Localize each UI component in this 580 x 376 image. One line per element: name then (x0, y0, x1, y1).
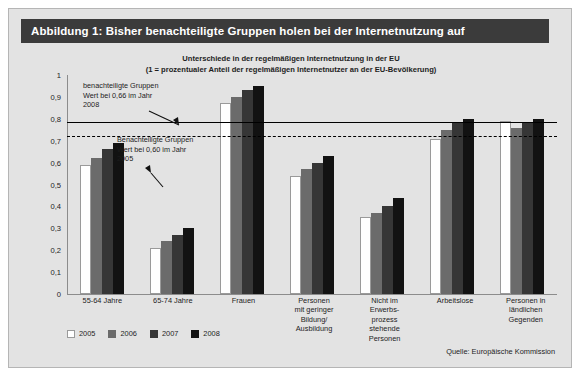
page-title: Abbildung 1: Bisher benachteiligte Grupp… (31, 25, 465, 37)
x-axis-line (67, 294, 557, 295)
x-axis-label: Arbeitslose (420, 296, 491, 305)
bar-2008 (393, 198, 404, 294)
bar-2008 (183, 228, 194, 294)
legend-label: 2008 (203, 329, 219, 338)
y-axis-tick: 0,5 (27, 180, 61, 189)
bar-2005 (500, 121, 511, 294)
legend-item-2007[interactable]: 2007 (150, 329, 178, 338)
y-axis-tick: 0,7 (27, 136, 61, 145)
x-axis-label: Personen inländlichenGegenden (490, 296, 561, 324)
bar-2008 (463, 119, 474, 294)
legend-swatch-icon (67, 330, 75, 338)
bar-group (277, 75, 347, 294)
bar-2006 (511, 128, 522, 294)
bar-2006 (161, 241, 172, 294)
bar-2006 (301, 169, 312, 294)
bar-2008 (323, 156, 334, 294)
legend-item-2006[interactable]: 2006 (108, 329, 136, 338)
chart-subtitle-line2: (1 = prozentualer Anteil der regelmäßige… (9, 64, 573, 75)
chart-legend: 2005200620072008 (67, 329, 220, 338)
y-axis-tick: 0,2 (27, 246, 61, 255)
figure-header: Abbildung 1: Bisher benachteiligte Grupp… (21, 19, 549, 43)
legend-swatch-icon (150, 330, 158, 338)
bar-2005 (80, 165, 91, 294)
legend-label: 2006 (120, 329, 136, 338)
legend-swatch-icon (191, 330, 199, 338)
y-axis-tick: 0,1 (27, 268, 61, 277)
x-axis-label: Personenmit geringerBildung/Ausbildung (279, 296, 350, 334)
y-axis-tick: 0,3 (27, 224, 61, 233)
plot-area: 10,90,80,70,60,50,40,30,20,10 benachteil… (21, 75, 561, 327)
bar-2006 (371, 213, 382, 294)
bar-2007 (312, 163, 323, 294)
legend-label: 2005 (79, 329, 95, 338)
figure-container: Abbildung 1: Bisher benachteiligte Grupp… (8, 8, 572, 368)
bar-2007 (172, 235, 183, 294)
x-axis-label: 65-74 Jahre (138, 296, 209, 305)
legend-label: 2007 (162, 329, 178, 338)
chart-subtitle-line1: Unterschiede in der regelmäßigen Interne… (9, 53, 573, 64)
bar-group (347, 75, 417, 294)
source-note: Quelle: Europäische Kommission (446, 347, 555, 356)
y-axis-tick: 0,6 (27, 158, 61, 167)
y-axis-tick: 0,9 (27, 92, 61, 101)
y-axis-tick: 1 (27, 71, 61, 80)
bar-2007 (452, 123, 463, 294)
bar-2005 (290, 176, 301, 294)
x-axis-label: Frauen (208, 296, 279, 305)
bar-2007 (382, 206, 393, 294)
bar-2008 (533, 119, 544, 294)
bar-group (487, 75, 557, 294)
bar-2006 (441, 130, 452, 294)
bar-2005 (360, 217, 371, 294)
y-axis-tick: 0,8 (27, 114, 61, 123)
y-axis: 10,90,80,70,60,50,40,30,20,10 (21, 75, 61, 327)
chart-subtitle: Unterschiede in der regelmäßigen Interne… (9, 53, 573, 75)
bar-2007 (522, 123, 533, 294)
x-axis-label: Nicht imErwerbs-prozessstehendePersonen (349, 296, 420, 343)
y-axis-tick: 0 (27, 290, 61, 299)
legend-item-2008[interactable]: 2008 (191, 329, 219, 338)
bar-2005 (430, 139, 441, 294)
legend-item-2005[interactable]: 2005 (67, 329, 95, 338)
bar-2007 (102, 149, 113, 294)
bar-group (417, 75, 487, 294)
y-axis-tick: 0,4 (27, 202, 61, 211)
legend-swatch-icon (108, 330, 116, 338)
bar-2006 (91, 158, 102, 294)
x-axis-label: 55-64 Jahre (67, 296, 138, 305)
annotation-2005-arrow-icon (117, 135, 257, 205)
bar-2005 (150, 248, 161, 294)
